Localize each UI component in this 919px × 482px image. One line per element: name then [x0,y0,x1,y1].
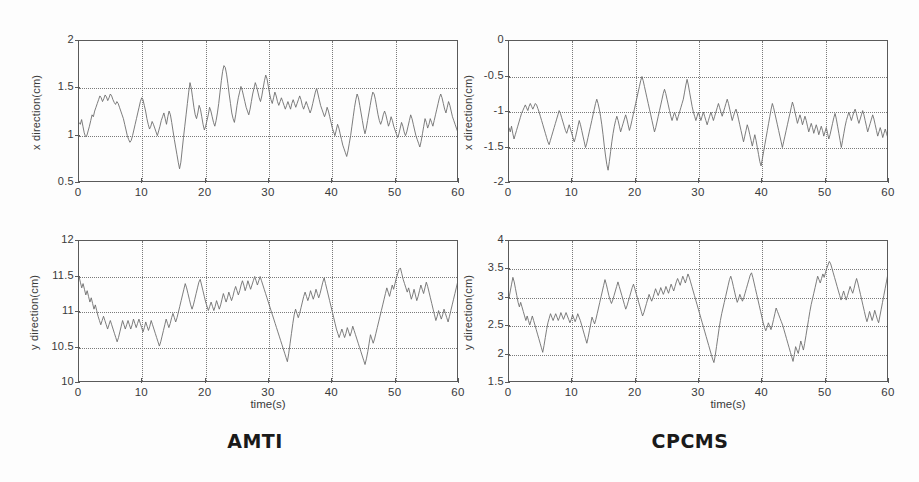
x-tick-label: 60 [870,386,906,398]
x-tick-mark [571,178,572,183]
x-tick-mark [205,178,206,183]
x-tick-mark [508,378,509,383]
plot-area-cpcms-x [508,40,888,182]
x-tick-label: 0 [60,186,96,198]
x-tick-label: 0 [490,386,526,398]
signal-trace [509,41,888,182]
panel-cpcms-x: x direction(cm) -2-1.5-1-0.5001020304050… [460,0,919,210]
x-tick-label: 30 [680,386,716,398]
y-tick-label: 0 [466,33,504,45]
x-tick-label: 20 [617,186,653,198]
y-tick-mark [505,297,510,298]
y-tick-mark [505,147,510,148]
x-tick-mark [395,178,396,183]
x-tick-label: 20 [187,186,223,198]
x-tick-mark [888,178,889,183]
x-tick-label: 10 [553,386,589,398]
y-tick-mark [505,40,510,41]
y-tick-mark [75,87,80,88]
y-tick-label: 12 [36,233,74,245]
x-tick-mark [78,178,79,183]
y-tick-label: 10.5 [36,340,74,352]
x-tick-label: 20 [617,386,653,398]
y-tick-label: -0.5 [466,69,504,81]
x-tick-label: 10 [123,386,159,398]
y-tick-mark [75,311,80,312]
y-tick-label: -1 [466,104,504,116]
y-tick-mark [505,354,510,355]
y-tick-mark [505,325,510,326]
x-tick-mark [78,378,79,383]
x-tick-label: 10 [553,186,589,198]
y-tick-label: 3.5 [466,261,504,273]
plot-area-amti-y [78,240,458,382]
x-tick-mark [268,378,269,383]
y-axis-label-cpcms-y: y direction(cm) [462,275,474,350]
y-tick-label: -1.5 [466,140,504,152]
x-tick-mark [635,178,636,183]
y-tick-label: 11.5 [36,269,74,281]
y-tick-label: 4 [466,233,504,245]
x-tick-label: 0 [490,186,526,198]
x-tick-label: 50 [377,186,413,198]
x-axis-label-cpcms-y: time(s) [648,398,808,410]
x-tick-mark [888,378,889,383]
x-tick-label: 40 [313,386,349,398]
y-tick-label: 11 [36,304,74,316]
x-tick-mark [635,378,636,383]
x-tick-mark [571,378,572,383]
x-tick-mark [458,378,459,383]
x-tick-mark [698,378,699,383]
x-tick-mark [331,378,332,383]
x-tick-mark [141,378,142,383]
x-tick-label: 40 [743,386,779,398]
panel-cpcms-y: y direction(cm) time(s) 1.522.533.540102… [460,210,919,415]
y-tick-mark [505,268,510,269]
x-tick-mark [331,178,332,183]
y-tick-mark [75,135,80,136]
x-tick-mark [458,178,459,183]
x-tick-label: 40 [743,186,779,198]
x-tick-mark [761,378,762,383]
y-tick-mark [75,347,80,348]
x-tick-mark [205,378,206,383]
x-tick-label: 50 [807,186,843,198]
y-tick-label: 2.5 [466,318,504,330]
plot-area-cpcms-y [508,240,888,382]
y-tick-mark [75,240,80,241]
y-tick-mark [75,276,80,277]
x-tick-mark [698,178,699,183]
x-tick-mark [395,378,396,383]
y-tick-label: 1.5 [36,80,74,92]
plot-area-amti-x [78,40,458,182]
y-tick-label: 3 [466,290,504,302]
y-tick-label: 2 [36,33,74,45]
signal-trace [79,241,458,382]
x-tick-mark [825,378,826,383]
x-tick-label: 50 [377,386,413,398]
y-tick-label: 1 [36,128,74,140]
x-tick-label: 30 [250,186,286,198]
x-axis-label-amti-y: time(s) [188,398,348,410]
x-tick-mark [508,178,509,183]
y-tick-mark [505,76,510,77]
signal-trace [79,41,458,182]
x-tick-mark [268,178,269,183]
caption-amti: AMTI [175,430,335,452]
x-tick-mark [761,178,762,183]
x-tick-label: 50 [807,386,843,398]
figure-container: x direction(cm) 0.511.520102030405060 x … [0,0,919,482]
y-tick-label: 2 [466,347,504,359]
x-tick-label: 0 [60,386,96,398]
y-tick-mark [505,240,510,241]
x-tick-label: 60 [870,186,906,198]
x-tick-mark [825,178,826,183]
x-tick-label: 30 [250,386,286,398]
panel-amti-y: y direction(cm) time(s) 1010.51111.51201… [0,210,460,415]
x-tick-label: 20 [187,386,223,398]
signal-trace [509,241,888,382]
x-tick-mark [141,178,142,183]
y-tick-mark [505,111,510,112]
x-tick-label: 40 [313,186,349,198]
caption-cpcms: CPCMS [610,430,770,452]
